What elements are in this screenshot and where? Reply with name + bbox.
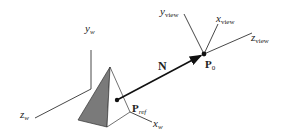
z-w-label: zw — [19, 108, 29, 122]
z-view-axis — [204, 33, 252, 54]
pyramid-front-face — [107, 67, 130, 127]
viewing-coordinates-diagram: yw zw xw yview xview zview N Pref P0 — [0, 0, 288, 135]
pyramid-shaded-face — [78, 67, 110, 127]
p-ref-label: Pref — [132, 102, 147, 116]
p0-point — [202, 52, 207, 57]
p0-label: P0 — [205, 58, 216, 72]
y-view-label: yview — [159, 5, 179, 19]
x-w-label: xw — [152, 117, 163, 131]
x-view-axis — [204, 24, 218, 54]
p-ref-point — [115, 98, 119, 102]
x-view-label: xview — [215, 12, 235, 26]
z-view-label: zview — [250, 31, 270, 45]
y-w-label: yw — [84, 22, 95, 36]
y-view-axis — [184, 14, 204, 54]
n-vector-label: N — [158, 59, 167, 73]
